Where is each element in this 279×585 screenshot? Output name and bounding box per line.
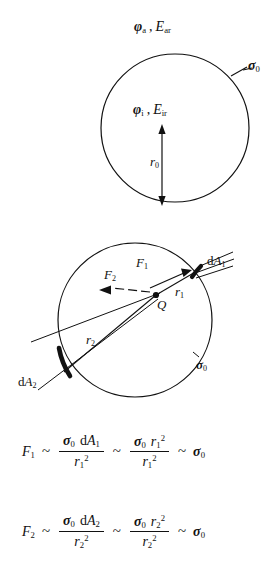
eq2-rhs-sigma: σ — [193, 524, 201, 539]
eq2-f2-sigma: σ — [134, 514, 142, 529]
E-a-subscript: ar — [164, 25, 171, 35]
eq1-frac1-numerator: σ0dA1 — [59, 434, 104, 451]
eq2-frac2-denominator: r22 — [138, 532, 160, 550]
label-surface-charge-mid: σ0 — [196, 358, 207, 373]
F2-symbol: F — [104, 267, 112, 282]
sigma0-leader-line-top — [231, 67, 247, 76]
r2-line — [64, 295, 156, 372]
diagram-uncharged-sphere — [101, 54, 252, 206]
eq1-f1-sigma-sub: 0 — [71, 440, 75, 450]
sigma-subscript-mid: 0 — [203, 364, 207, 373]
eq2-f1-d: d — [80, 513, 87, 528]
eq2-f2-den-sup: 2 — [152, 533, 156, 543]
r1-subscript: 1 — [180, 291, 184, 300]
figure-vector-layer — [0, 0, 279, 585]
eq1-rhs-sigma: σ — [193, 444, 201, 459]
eq2-f1-A-sub: 2 — [95, 520, 99, 530]
eq1-frac1-denominator: r12 — [70, 452, 92, 470]
F1-symbol: F — [136, 255, 144, 270]
eq1-F-subscript: 1 — [31, 450, 35, 460]
phi-a-subscript: a — [142, 25, 146, 35]
equation-force-1: F1 ~ σ0dA1 r12 ~ σ0r12 r12 ~ σ0 — [22, 434, 205, 470]
eq2-fraction-2: σ0r22 r22 — [130, 514, 169, 550]
label-force-F2: F2 — [104, 268, 116, 283]
F2-arrow-shaft — [112, 288, 150, 292]
eq2-f1-sigma: σ — [63, 513, 71, 528]
eq1-relation-3: ~ — [178, 443, 186, 460]
dA1-subscript: 1 — [221, 260, 225, 269]
sigma-symbol-mid: σ — [196, 357, 203, 372]
eq1-f1-d: d — [80, 433, 87, 448]
eq1-lhs: F1 — [22, 444, 35, 460]
eq2-frac2-numerator: σ0r22 — [130, 514, 169, 531]
F2-subscript: 2 — [112, 274, 116, 283]
eq2-f1-den-sup: 2 — [84, 533, 88, 543]
eq1-f2-sigma-sub: 0 — [142, 440, 146, 450]
label-inside-potential-field: φi,Eir — [133, 103, 167, 118]
E-a-symbol: E — [156, 19, 165, 34]
eq2-F-subscript: 2 — [31, 530, 35, 540]
eq1-f1-sigma: σ — [63, 433, 71, 448]
equation-force-2: F2 ~ σ0dA2 r22 ~ σ0r22 r22 ~ σ0 — [22, 514, 205, 550]
eq1-f1-den-sup: 2 — [84, 453, 88, 463]
r2-subscript: 2 — [91, 339, 95, 348]
eq1-frac2-denominator: r12 — [138, 452, 160, 470]
eq2-lhs: F2 — [22, 524, 35, 540]
eq1-frac2-numerator: σ0r12 — [130, 434, 169, 451]
sigma-symbol-top: σ — [248, 58, 256, 73]
F1-subscript: 1 — [144, 262, 148, 271]
figure-root: φa,Ear σ0 φi,Eir r0 F1 F2 dA1 r1 Q r2 dA… — [0, 0, 279, 585]
label-area-element-dA2: dA2 — [18, 375, 36, 390]
eq2-f1-sigma-sub: 0 — [71, 520, 75, 530]
eq1-f1-A-sub: 1 — [95, 440, 99, 450]
eq2-fraction-1: σ0dA2 r22 — [59, 514, 104, 550]
eq2-relation-1: ~ — [42, 523, 50, 540]
eq2-relation-2: ~ — [113, 523, 121, 540]
eq2-frac1-numerator: σ0dA2 — [59, 514, 104, 531]
eq1-f2-den-sup: 2 — [152, 453, 156, 463]
label-area-element-dA1: dA1 — [207, 254, 225, 269]
dA2-leader-upper — [31, 293, 160, 342]
phi-a-symbol: φ — [134, 19, 142, 34]
eq2-rhs: σ0 — [193, 524, 205, 540]
r0-arrow-head-up — [158, 124, 165, 134]
label-separator-top: , — [149, 19, 153, 34]
eq2-frac1-denominator: r22 — [70, 532, 92, 550]
F2-arrow-head — [99, 286, 111, 295]
eq1-relation-1: ~ — [42, 443, 50, 460]
sphere-outline-top — [101, 54, 249, 202]
label-radius-r2: r2 — [86, 333, 95, 348]
eq1-fraction-2: σ0r12 r12 — [130, 434, 169, 470]
eq1-F-symbol: F — [22, 444, 31, 459]
eq2-f2-r-sup: 2 — [161, 513, 165, 523]
E-i-symbol: E — [153, 102, 162, 117]
dA2-leader-lower — [38, 299, 158, 390]
label-radius-r0: r0 — [150, 155, 159, 170]
label-point-charge-Q: Q — [157, 298, 166, 311]
eq1-rhs-sigma-sub: 0 — [201, 450, 205, 460]
eq1-f2-sigma: σ — [134, 434, 142, 449]
diagram-charge-inside-sphere — [31, 243, 234, 397]
phi-i-symbol: φ — [133, 102, 141, 117]
label-surface-charge-top: σ0 — [248, 59, 260, 74]
eq2-rhs-sigma-sub: 0 — [201, 530, 205, 540]
label-outside-potential-field: φa,Ear — [134, 20, 171, 35]
r0-subscript: 0 — [155, 161, 159, 170]
label-force-F1: F1 — [136, 256, 148, 271]
E-i-subscript: ir — [162, 108, 167, 118]
eq1-fraction-1: σ0dA1 r12 — [59, 434, 104, 470]
eq2-relation-3: ~ — [178, 523, 186, 540]
eq1-rhs: σ0 — [193, 444, 205, 460]
eq1-f2-r-sup: 2 — [161, 433, 165, 443]
label-radius-r1: r1 — [175, 285, 184, 300]
sphere-outline-mid — [58, 243, 212, 397]
eq2-f2-sigma-sub: 0 — [142, 520, 146, 530]
sigma-subscript-top: 0 — [256, 64, 260, 74]
eq1-relation-2: ~ — [113, 443, 121, 460]
label-separator-inner: , — [147, 102, 151, 117]
dA2-subscript: 2 — [32, 381, 36, 390]
eq2-F-symbol: F — [22, 524, 31, 539]
phi-i-subscript: i — [141, 108, 143, 118]
